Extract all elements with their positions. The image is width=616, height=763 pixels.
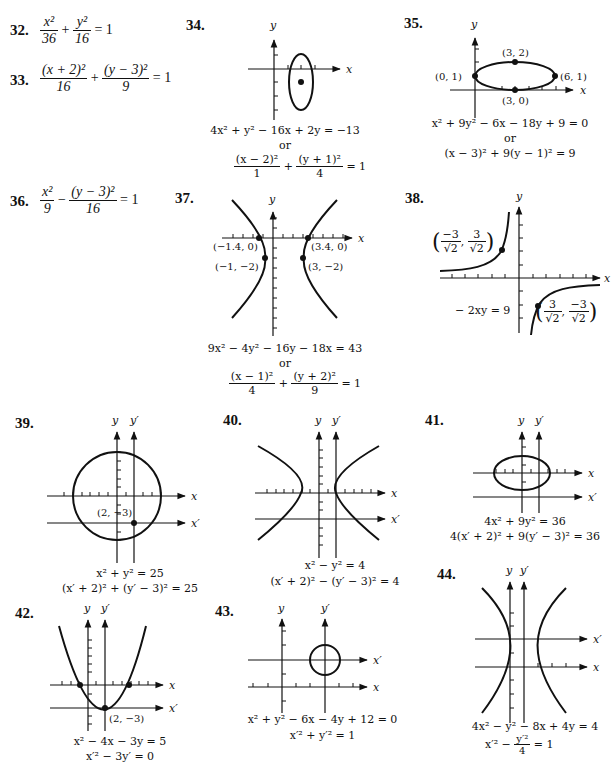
x-axis-label: x — [588, 467, 595, 480]
x-axis-label: x — [358, 232, 365, 245]
eq41-line2: 4(x′ + 2)² + 9(y′ − 3)² = 36 — [440, 530, 610, 543]
eq37-den2: 9 — [291, 384, 337, 397]
x-axis-label: x — [391, 487, 398, 500]
hyperbola-left-branch — [482, 588, 510, 713]
problem-number-35: 35. — [404, 15, 423, 32]
eq34-op: + — [284, 160, 293, 173]
eq42-line1: x² − 4x − 3y = 5 — [45, 735, 195, 748]
x-axis-label: x — [580, 84, 587, 97]
x-axis-label: x — [593, 661, 600, 674]
label-neg1-neg2: (−1, −2) — [215, 261, 259, 272]
parabola-curve — [59, 626, 146, 710]
x-axis-label: x — [169, 679, 176, 692]
eq44-lhs: x′² − — [485, 738, 511, 751]
point-bottom — [512, 87, 518, 93]
eq34-num1: (x − 2)² — [234, 153, 280, 167]
label-neg1.4-0: (−1.4, 0) — [213, 241, 258, 252]
eq34-rhs: = 1 — [346, 160, 366, 173]
y-prime-axis-label: y′ — [534, 414, 544, 427]
problem-number-40: 40. — [223, 412, 242, 429]
eq32-rhs: = 1 — [94, 22, 112, 37]
p1x-num: −3 — [441, 228, 461, 242]
eq34-line1: 4x² + y² − 16x + 2y = −13 — [210, 124, 360, 137]
equation-33: (x + 2)²16 + (y − 3)²9 = 1 — [40, 62, 171, 95]
eq36-num1: x² — [40, 184, 54, 201]
eq43-line1: x² + y² − 6x − 4y + 12 = 0 — [235, 713, 410, 726]
eq37-line1: 9x² − 4y² − 16y − 18x = 43 — [200, 342, 370, 355]
eq32-den2: 16 — [73, 31, 91, 47]
x-axis-label: x — [191, 490, 198, 503]
y-prime-axis-label: y′ — [320, 602, 330, 615]
eq35-or: or — [425, 132, 595, 145]
eq44-num: y′² — [514, 733, 530, 745]
hyperbola-right-branch — [538, 588, 566, 713]
problem-number-42: 42. — [15, 605, 34, 622]
point-top — [512, 59, 518, 65]
point-right — [552, 73, 558, 79]
eq37-den1: 4 — [229, 384, 275, 397]
problem-number-39: 39. — [15, 415, 34, 432]
p2x-den: √2 — [544, 312, 562, 325]
label-2-neg3: (2, −3) — [109, 713, 144, 724]
x-prime-axis-label: x′ — [588, 491, 597, 504]
eq37-num2: (y + 2)² — [291, 370, 337, 384]
eq38: − 2xy = 9 — [455, 304, 510, 317]
eq37-line2: (x − 1)²4 + (y + 2)²9 = 1 — [215, 370, 375, 397]
point-2-neg3 — [131, 520, 137, 526]
problem-number-32: 32. — [10, 22, 29, 39]
x-axis-label: x — [604, 272, 611, 285]
y-prime-axis-label: y′ — [100, 602, 110, 615]
eq41-line1: 4x² + 9y² = 36 — [455, 515, 595, 528]
eq39-line1: x² + y² = 25 — [50, 567, 210, 580]
x-axis-label: x — [373, 681, 380, 694]
p1x-den: √2 — [441, 242, 461, 255]
label-6-1: (6, 1) — [560, 71, 587, 82]
label-2-neg3: (2, −3) — [97, 507, 132, 518]
x-axis-label: x — [346, 63, 353, 76]
point-3-neg2 — [300, 255, 306, 261]
y-axis-label: y — [111, 414, 119, 427]
eq33-num1: (x + 2)² — [40, 62, 87, 79]
y-axis-label: y — [277, 602, 285, 615]
eq32-den1: 36 — [40, 31, 58, 47]
eq36-den1: 9 — [40, 201, 54, 217]
eq36-den2: 16 — [69, 201, 116, 217]
problem-number-44: 44. — [437, 566, 456, 583]
eq33-den1: 16 — [40, 79, 87, 95]
eq40-line1: x² − y² = 4 — [260, 559, 410, 572]
eq36-rhs: = 1 — [120, 192, 138, 207]
y-axis-label: y — [505, 564, 513, 577]
y-axis-label: y — [83, 602, 91, 615]
center-point — [298, 79, 304, 85]
problem-number-38: 38. — [405, 190, 424, 207]
eq33-rhs: = 1 — [153, 70, 171, 85]
eq37-num1: (x − 1)² — [229, 370, 275, 384]
label-3-2: (3, 2) — [502, 47, 529, 58]
label-3-neg2: (3, −2) — [308, 261, 343, 272]
eq37-op: + — [279, 377, 288, 390]
y-prime-axis-label: y′ — [331, 414, 341, 427]
p1y-num: 3 — [468, 228, 486, 242]
graph-43: x′ x y y′ — [255, 605, 420, 715]
eq43-line2: x′² + y′² = 1 — [235, 729, 410, 742]
eq34-or: or — [210, 139, 360, 152]
eq33-den2: 9 — [102, 79, 149, 95]
y-axis-label: y — [314, 414, 322, 427]
label-3-0: (3, 0) — [502, 95, 529, 106]
eq34-num2: (y + 1)² — [296, 153, 342, 167]
eq37-rhs: = 1 — [341, 377, 361, 390]
problem-number-36: 36. — [10, 193, 29, 210]
eq35-line1: x² + 9y² − 6x − 18y + 9 = 0 — [425, 117, 595, 130]
y-axis-label: y — [517, 414, 525, 427]
point-left-intercept — [77, 682, 83, 688]
graph-34: x y — [240, 20, 360, 130]
eq36-op: − — [58, 192, 66, 207]
y-prime-axis-label: y′ — [519, 564, 529, 577]
label-point-lower: (3√2, −3√2) — [535, 298, 597, 325]
equation-32: x²36 + y²16 = 1 — [40, 14, 113, 47]
eq40-line2: (x′ + 2)² − (y′ − 3)² = 4 — [260, 575, 410, 588]
eq44-den: 4 — [514, 745, 530, 756]
graph-42: (2, −3) x x′ y y′ — [45, 608, 195, 733]
eq44-line1: 4x² − y² − 8x + 4y = 4 — [455, 720, 615, 733]
equation-36: x²9 − (y − 3)²16 = 1 — [40, 184, 138, 217]
